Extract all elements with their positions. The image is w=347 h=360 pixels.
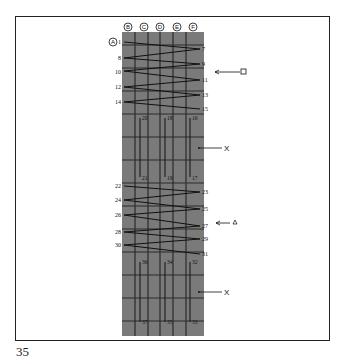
svg-text:7: 7 bbox=[202, 46, 205, 52]
svg-text:31: 31 bbox=[202, 251, 208, 257]
svg-text:11: 11 bbox=[202, 77, 208, 83]
marker-square bbox=[215, 69, 246, 74]
svg-text:15: 15 bbox=[202, 106, 208, 112]
svg-text:29: 29 bbox=[202, 236, 208, 242]
triangle-icon bbox=[233, 220, 237, 224]
thread-labels: 20 18 16 21 19 17 36 34 32 37 35 33 bbox=[142, 115, 198, 325]
svg-text:22: 22 bbox=[115, 183, 121, 189]
svg-text:19: 19 bbox=[167, 175, 173, 181]
svg-text:1: 1 bbox=[118, 39, 121, 45]
column-label-b: B bbox=[126, 24, 130, 30]
svg-text:30: 30 bbox=[115, 242, 121, 248]
page-number: 35 bbox=[16, 344, 29, 360]
threading-diagram: B C D E F A 1 8 10 12 14 22 24 26 28 30 … bbox=[0, 0, 347, 360]
svg-text:16: 16 bbox=[192, 115, 198, 121]
svg-text:33: 33 bbox=[192, 319, 198, 325]
svg-text:27: 27 bbox=[202, 223, 208, 229]
x-icon: X bbox=[224, 288, 230, 297]
marker-x-2: X bbox=[198, 288, 230, 297]
svg-text:34: 34 bbox=[167, 259, 173, 265]
row-label: A bbox=[109, 38, 117, 46]
svg-text:36: 36 bbox=[142, 259, 148, 265]
column-label-e: E bbox=[175, 24, 179, 30]
svg-text:28: 28 bbox=[115, 229, 121, 235]
marker-triangle bbox=[216, 220, 237, 225]
square-icon bbox=[241, 69, 246, 74]
svg-text:37: 37 bbox=[142, 319, 148, 325]
svg-text:23: 23 bbox=[202, 189, 208, 195]
svg-text:8: 8 bbox=[118, 55, 121, 61]
svg-text:13: 13 bbox=[202, 92, 208, 98]
svg-text:12: 12 bbox=[115, 84, 121, 90]
right-numbers: 7 9 11 13 15 23 25 27 29 31 bbox=[202, 46, 208, 257]
svg-text:20: 20 bbox=[142, 115, 148, 121]
column-label-f: F bbox=[191, 24, 195, 30]
svg-text:26: 26 bbox=[115, 212, 121, 218]
svg-text:21: 21 bbox=[142, 175, 148, 181]
svg-text:32: 32 bbox=[192, 259, 198, 265]
svg-text:18: 18 bbox=[167, 115, 173, 121]
left-numbers: 1 8 10 12 14 22 24 26 28 30 bbox=[115, 39, 121, 248]
column-label-c: C bbox=[142, 24, 147, 30]
x-icon: X bbox=[224, 144, 230, 153]
svg-text:24: 24 bbox=[115, 197, 121, 203]
svg-text:17: 17 bbox=[192, 175, 198, 181]
svg-text:10: 10 bbox=[115, 69, 121, 75]
column-label-d: D bbox=[158, 24, 163, 30]
svg-text:9: 9 bbox=[202, 61, 205, 67]
column-labels: B C D E F bbox=[124, 23, 197, 31]
row-label-a: A bbox=[111, 39, 115, 45]
svg-text:25: 25 bbox=[202, 206, 208, 212]
svg-text:14: 14 bbox=[115, 99, 121, 105]
marker-x-1: X bbox=[198, 144, 230, 153]
svg-text:35: 35 bbox=[167, 319, 173, 325]
